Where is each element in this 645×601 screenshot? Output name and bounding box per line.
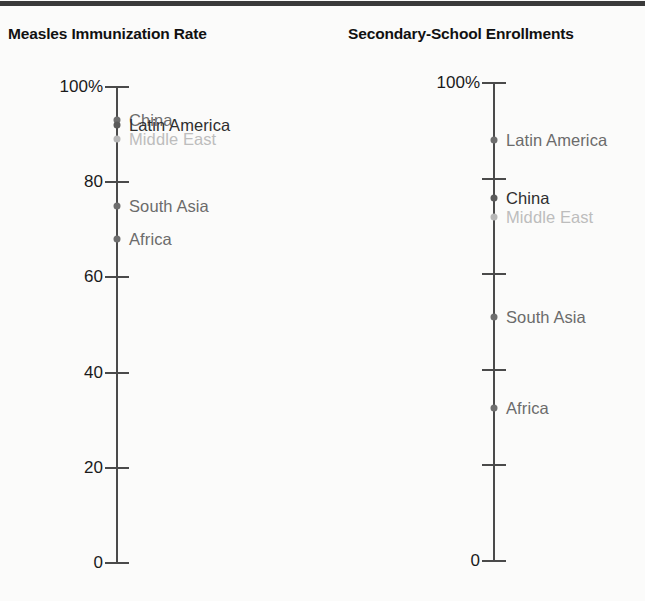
data-point [114,136,121,143]
data-point-label: South Asia [129,197,209,216]
y-axis-tick-label: 40 [84,363,103,383]
data-point [491,314,498,321]
y-axis-tick-label: 0 [94,553,103,573]
y-axis-tick [105,467,129,469]
y-axis-tick [482,560,506,562]
y-axis-tick [105,86,129,88]
y-axis-tick [105,372,129,374]
data-point [491,405,498,412]
y-axis-tick [105,562,129,564]
data-point [491,213,498,220]
y-axis-tick [482,369,506,371]
y-axis-tick [105,276,129,278]
y-axis-tick-label: 0 [471,551,480,571]
y-axis-tick [482,464,506,466]
data-point-label: China [506,188,550,207]
y-axis-tick-label: 80 [84,172,103,192]
y-axis-line [116,87,118,563]
data-point [114,122,121,129]
y-axis-tick [482,273,506,275]
y-axis-tick [482,178,506,180]
data-point-label: Africa [129,230,172,249]
y-axis-tick-label: 20 [84,458,103,478]
panel-title: Secondary-School Enrollments [348,25,574,43]
y-axis-tick-label: 100% [437,73,480,93]
data-point-label: South Asia [506,308,586,327]
y-axis-tick [105,181,129,183]
y-axis-line [493,83,495,561]
figure-root: Measles Immunization Rate 100%806040200C… [0,0,645,601]
data-point-label: Latin America [506,131,607,150]
data-point [114,203,121,210]
chart-panel-measles-immunization-rate: Measles Immunization Rate 100%806040200C… [0,0,330,601]
data-point-label: Middle East [506,207,593,226]
data-point-label: Middle East [129,130,216,149]
y-axis-tick-label: 60 [84,267,103,287]
data-point [114,236,121,243]
panel-title: Measles Immunization Rate [8,25,207,43]
data-point [491,194,498,201]
data-point [491,137,498,144]
chart-panel-secondary-school-enrollments: Secondary-School Enrollments 100%0Latin … [330,0,645,601]
y-axis-tick-label: 100% [60,77,103,97]
data-point-label: Africa [506,399,549,418]
y-axis-tick [482,82,506,84]
